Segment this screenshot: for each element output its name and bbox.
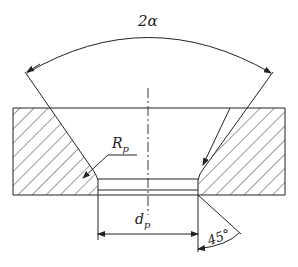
label-45deg: 45°	[204, 226, 232, 248]
angle-2alpha-arc	[27, 38, 271, 74]
label-Rp: Rp	[111, 135, 130, 154]
technical-drawing: 2α Rp dp 45°	[0, 0, 298, 267]
left-section	[13, 108, 98, 195]
right-section	[198, 108, 285, 195]
label-dp: dp	[135, 211, 151, 230]
label-2alpha: 2α	[137, 12, 158, 30]
